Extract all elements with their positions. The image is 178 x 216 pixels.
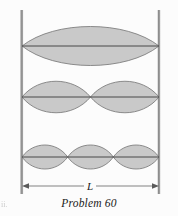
figure-canvas: L — [0, 0, 178, 216]
right-wall — [157, 10, 160, 194]
left-wall — [20, 10, 23, 194]
corner-scan-artifact: ii. — [1, 200, 7, 209]
figure-caption: Problem 60 — [0, 197, 178, 209]
third-harmonic — [22, 145, 159, 169]
length-label: L — [86, 180, 93, 192]
standing-wave-figure: L Problem 60 ii. — [0, 0, 178, 216]
second-harmonic — [22, 81, 159, 113]
first-harmonic — [22, 27, 159, 66]
